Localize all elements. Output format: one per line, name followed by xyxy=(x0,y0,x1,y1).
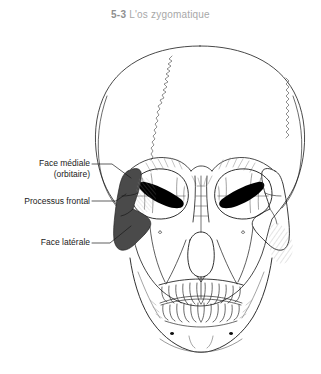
temporal-fossa-hatch-left xyxy=(136,176,156,213)
infraorbital-foramen-left xyxy=(158,231,161,233)
mandible-lower-border xyxy=(160,339,242,352)
mandible-hatching xyxy=(150,300,252,318)
glabella xyxy=(191,166,212,171)
coronal-suture-left xyxy=(151,56,172,160)
zygomaticotemporal-line-right xyxy=(265,193,281,196)
mandible-ramus-right xyxy=(242,272,264,318)
frontal-hatching xyxy=(146,158,255,185)
coronal-suture-right xyxy=(286,78,289,138)
maxilla-left xyxy=(150,227,186,284)
piriform-aperture xyxy=(188,232,215,277)
skull-illustration xyxy=(0,0,321,374)
infraorbital-foramen-right xyxy=(241,231,244,233)
mandible-ramus-left xyxy=(138,272,160,318)
lower-teeth xyxy=(161,299,241,327)
mental-foramen-right xyxy=(229,332,233,335)
mandible-outline xyxy=(130,258,272,352)
figure-page: 5-3L'os zygomatique Face médiale (orbita… xyxy=(0,0,321,374)
mental-foramen-left xyxy=(170,332,174,335)
maxilla-right xyxy=(217,227,253,284)
mental-protuberance xyxy=(189,336,213,348)
